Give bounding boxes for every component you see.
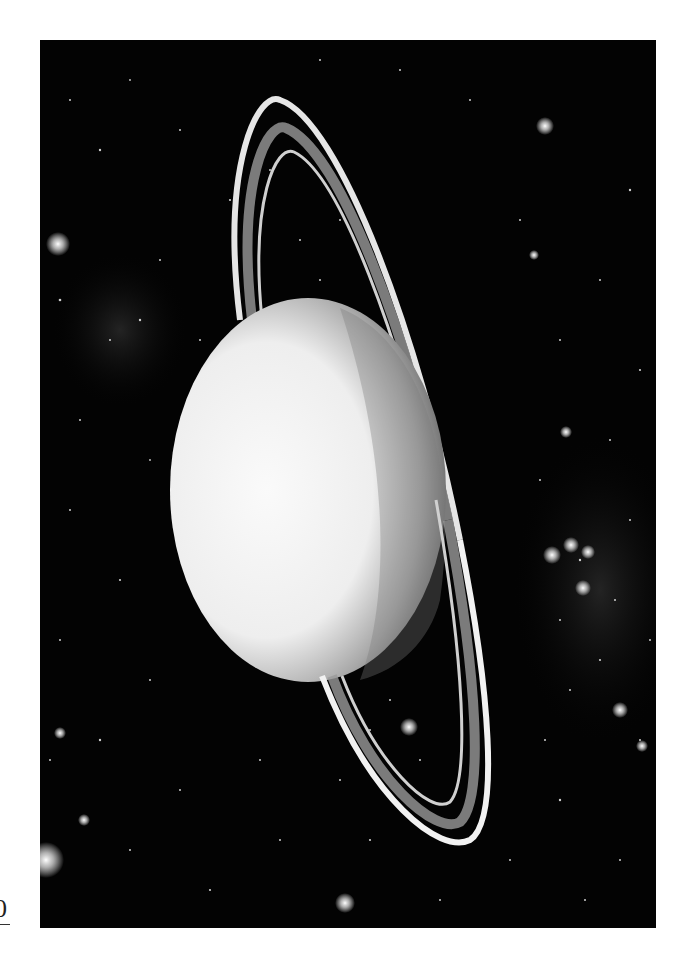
planet-photo: [40, 40, 656, 928]
planet-illustration: [40, 40, 656, 928]
page-margin-mark: 0: [0, 896, 10, 925]
